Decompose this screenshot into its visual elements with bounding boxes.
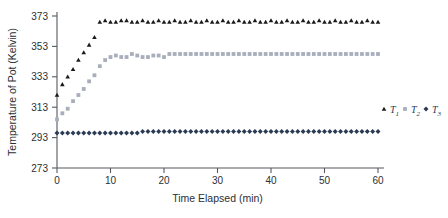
datapoint-T1-59 <box>370 20 375 24</box>
datapoint-T2-56 <box>355 52 359 56</box>
datapoint-T2-23 <box>178 52 182 56</box>
x-tick-label-30: 30 <box>212 175 224 186</box>
datapoint-T2-59 <box>371 52 375 56</box>
datapoint-T3-10 <box>108 131 113 136</box>
datapoint-T3-1 <box>60 131 65 136</box>
datapoint-T1-49 <box>317 18 322 22</box>
datapoint-T3-0 <box>55 131 60 136</box>
datapoint-T3-27 <box>199 129 204 134</box>
datapoint-T1-60 <box>376 20 381 24</box>
datapoint-T2-24 <box>184 52 188 56</box>
y-tick-label-373: 373 <box>31 11 48 22</box>
datapoint-T2-53 <box>339 52 343 56</box>
datapoint-T1-2 <box>65 75 70 79</box>
datapoint-T2-27 <box>200 52 204 56</box>
datapoint-T1-29 <box>210 20 215 24</box>
datapoint-T3-12 <box>119 131 124 136</box>
datapoint-T3-5 <box>81 131 86 136</box>
datapoint-T3-25 <box>188 129 193 134</box>
y-tick-label-313: 313 <box>31 102 48 113</box>
datapoint-T2-1 <box>60 111 64 115</box>
datapoint-T2-16 <box>141 55 145 59</box>
datapoint-T3-2 <box>65 131 70 136</box>
datapoint-T1-16 <box>140 18 145 22</box>
datapoint-T3-37 <box>252 129 257 134</box>
datapoint-T1-22 <box>172 18 177 22</box>
datapoint-T1-42 <box>279 20 284 24</box>
datapoint-T2-28 <box>205 52 209 56</box>
datapoint-T1-25 <box>188 18 193 22</box>
datapoint-T1-31 <box>221 18 226 22</box>
datapoint-T3-57 <box>359 129 364 134</box>
datapoint-T2-57 <box>360 52 364 56</box>
datapoint-T2-46 <box>301 52 305 56</box>
datapoint-T3-14 <box>129 131 134 136</box>
datapoint-T3-60 <box>376 129 381 134</box>
legend-marker-T1 <box>382 107 387 111</box>
x-tick-label-0: 0 <box>54 175 60 186</box>
datapoint-T3-24 <box>183 129 188 134</box>
datapoint-T2-51 <box>328 52 332 56</box>
datapoint-T1-57 <box>360 20 365 24</box>
datapoint-T1-46 <box>301 18 306 22</box>
datapoint-T3-53 <box>338 129 343 134</box>
datapoint-T2-34 <box>237 52 241 56</box>
datapoint-T3-15 <box>135 131 140 136</box>
datapoint-T3-35 <box>242 129 247 134</box>
datapoint-T1-23 <box>178 20 183 24</box>
datapoint-T2-60 <box>376 52 380 56</box>
datapoint-T1-8 <box>98 20 103 24</box>
datapoint-T2-29 <box>210 52 214 56</box>
datapoint-T2-38 <box>258 52 262 56</box>
datapoint-T2-11 <box>114 54 118 58</box>
datapoint-T2-30 <box>216 52 220 56</box>
datapoint-T3-29 <box>210 129 215 134</box>
datapoint-T1-28 <box>205 18 210 22</box>
temperature-scatter-chart: 2732933133333533730102030405060Time Elap… <box>0 0 448 218</box>
legend-label-T1: T1 <box>390 104 399 118</box>
datapoint-T1-50 <box>322 20 327 24</box>
datapoint-T2-6 <box>87 79 91 83</box>
datapoint-T3-4 <box>76 131 81 136</box>
datapoint-T2-3 <box>71 99 75 103</box>
y-tick-label-333: 333 <box>31 71 48 82</box>
datapoint-T1-21 <box>167 20 172 24</box>
legend-marker-T2 <box>403 107 407 111</box>
datapoint-T1-47 <box>306 20 311 24</box>
datapoint-T2-47 <box>307 52 311 56</box>
datapoint-T1-5 <box>81 50 86 54</box>
datapoint-T3-58 <box>365 129 370 134</box>
datapoint-T1-52 <box>333 18 338 22</box>
datapoint-T3-28 <box>204 129 209 134</box>
datapoint-T2-54 <box>344 52 348 56</box>
datapoint-T3-40 <box>269 129 274 134</box>
datapoint-T1-56 <box>354 20 359 24</box>
datapoint-T2-13 <box>125 55 129 59</box>
datapoint-T1-51 <box>328 20 333 24</box>
datapoint-T2-43 <box>285 52 289 56</box>
datapoint-T2-55 <box>349 52 353 56</box>
datapoint-T3-38 <box>258 129 263 134</box>
datapoint-T3-54 <box>343 129 348 134</box>
datapoint-T2-48 <box>312 52 316 56</box>
datapoint-T3-46 <box>301 129 306 134</box>
datapoint-T2-42 <box>280 52 284 56</box>
datapoint-T2-25 <box>189 52 193 56</box>
datapoint-T2-12 <box>119 55 123 59</box>
datapoint-T2-41 <box>274 52 278 56</box>
datapoint-T3-9 <box>103 131 108 136</box>
datapoint-T1-37 <box>253 18 258 22</box>
legend-marker-T3 <box>424 107 429 112</box>
datapoint-T1-38 <box>258 20 263 24</box>
datapoint-T2-32 <box>226 52 230 56</box>
datapoint-T1-17 <box>146 20 151 24</box>
datapoint-T2-33 <box>232 52 236 56</box>
datapoint-T3-30 <box>215 129 220 134</box>
y-tick-label-293: 293 <box>31 132 48 143</box>
series-T2 <box>55 52 380 121</box>
datapoint-T3-16 <box>140 129 145 134</box>
datapoint-T1-33 <box>231 20 236 24</box>
datapoint-T3-42 <box>279 129 284 134</box>
datapoint-T1-48 <box>312 20 317 24</box>
datapoint-T1-0 <box>55 93 60 97</box>
